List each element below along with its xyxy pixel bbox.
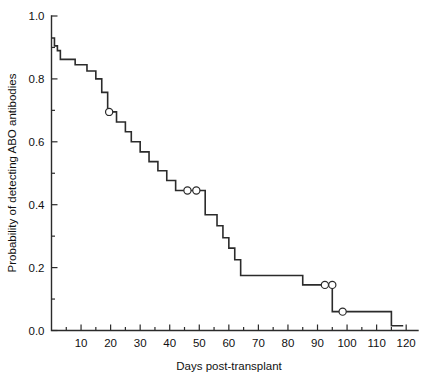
y-tick-label-0.6: 0.6 — [29, 136, 45, 148]
x-tick-label-120: 120 — [397, 337, 416, 349]
censor-marker-3 — [193, 187, 200, 194]
censor-marker-4 — [321, 281, 328, 288]
survival-plot: 102030405060708090100110120 0.00.20.40.6… — [0, 0, 433, 379]
y-axis-title: Probability of detecting ABO antibodies — [6, 73, 18, 272]
y-tick-label-0.2: 0.2 — [29, 262, 45, 274]
x-tick-label-90: 90 — [311, 337, 324, 349]
censor-marker-1 — [106, 108, 113, 115]
x-tick-label-100: 100 — [337, 337, 356, 349]
x-axis-tick-labels: 102030405060708090100110120 — [75, 337, 416, 349]
x-axis-title: Days post-transplant — [176, 360, 282, 372]
y-tick-label-0.4: 0.4 — [29, 199, 46, 211]
x-tick-label-80: 80 — [282, 337, 295, 349]
censor-marker-5 — [329, 281, 336, 288]
censor-marker-2 — [184, 187, 191, 194]
censor-marker-6 — [339, 308, 346, 315]
x-tick-label-20: 20 — [104, 337, 117, 349]
x-tick-label-70: 70 — [252, 337, 265, 349]
x-tick-label-50: 50 — [193, 337, 206, 349]
y-tick-label-1.0: 1.0 — [29, 10, 45, 22]
y-axis-tick-marks — [52, 16, 58, 331]
curve-group — [52, 38, 404, 326]
y-tick-label-0.0: 0.0 — [29, 325, 45, 337]
x-tick-label-110: 110 — [367, 337, 385, 349]
km-step-curve — [52, 38, 404, 326]
x-axis-tick-marks — [66, 325, 406, 331]
x-tick-label-40: 40 — [163, 337, 176, 349]
y-axis-tick-labels: 0.00.20.40.60.81.0 — [29, 10, 46, 337]
x-tick-label-30: 30 — [134, 337, 147, 349]
plot-axes — [52, 16, 419, 331]
kaplan-meier-figure: 102030405060708090100110120 0.00.20.40.6… — [0, 0, 433, 379]
y-tick-label-0.8: 0.8 — [29, 73, 45, 85]
x-tick-label-10: 10 — [75, 337, 88, 349]
axis-lines — [52, 16, 419, 331]
x-tick-label-60: 60 — [222, 337, 235, 349]
